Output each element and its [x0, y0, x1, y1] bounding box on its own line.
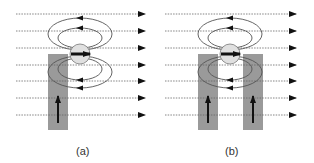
panel-b: [165, 14, 296, 130]
caption-b: (b): [225, 145, 238, 157]
diagram-canvas: [0, 0, 314, 163]
caption-a: (a): [76, 145, 89, 157]
panel-a: [16, 14, 145, 130]
